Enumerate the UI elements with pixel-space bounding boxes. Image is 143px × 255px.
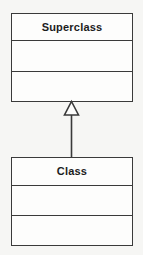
class-attributes-compartment-class <box>12 186 132 216</box>
class-operations-compartment-class <box>12 216 132 245</box>
class-name-label-class: Class <box>57 166 87 177</box>
class-attributes-compartment-superclass <box>12 41 132 72</box>
class-name-compartment-class: Class <box>12 158 132 186</box>
class-box-class[interactable]: Class <box>11 157 133 246</box>
class-name-compartment-superclass: Superclass <box>12 14 132 41</box>
class-name-label-superclass: Superclass <box>42 22 103 33</box>
hollow-triangle-arrowhead-icon <box>65 102 79 116</box>
class-box-superclass[interactable]: Superclass <box>11 13 133 102</box>
uml-diagram-canvas: Superclass Class <box>0 0 143 255</box>
class-operations-compartment-superclass <box>12 72 132 100</box>
